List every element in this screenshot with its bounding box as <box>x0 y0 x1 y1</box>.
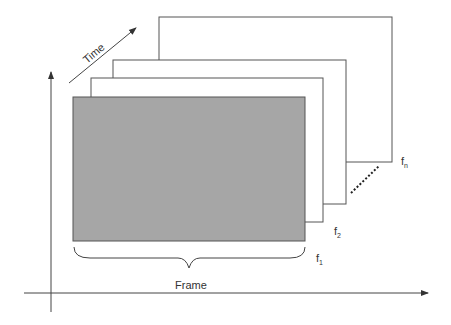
f1-label: f1 <box>316 252 323 266</box>
frame-brace <box>74 247 305 268</box>
frame-label: Frame <box>175 279 207 291</box>
frame-1 <box>73 97 305 241</box>
fn-label: fn <box>401 155 408 169</box>
frame-sequence-diagram: Time Frame f1 f2 fn <box>0 0 451 325</box>
f2-label: f2 <box>334 225 341 239</box>
time-label: Time <box>81 41 107 66</box>
continuation-dots <box>351 166 379 193</box>
